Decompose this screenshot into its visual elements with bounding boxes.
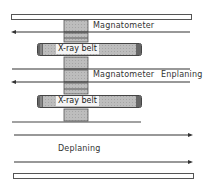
top-wall <box>12 15 192 20</box>
xray-belt-label-bottom: X-ray belt <box>56 96 99 106</box>
bottom-wall <box>14 174 194 179</box>
enplaning-label: Enplaning <box>161 70 203 79</box>
deplaning-label: Deplaning <box>58 144 101 153</box>
magnetometer-label-mid: Magnatometer <box>93 70 154 79</box>
enplaning-arrow-upper <box>11 30 190 34</box>
deplaning-arrow-lower <box>14 160 193 164</box>
enplaning-arrow-lower <box>11 80 190 84</box>
deplaning-arrow-upper <box>14 133 193 137</box>
magnetometer-label-top: Magnatometer <box>93 21 154 30</box>
xray-belt-label-top: X-ray belt <box>56 44 99 54</box>
